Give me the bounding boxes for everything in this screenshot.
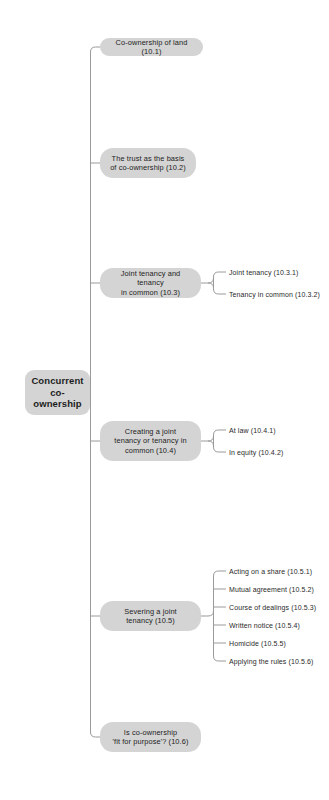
leaf-node-10-5-2[interactable]: Mutual agreement (10.5.2) <box>229 586 314 593</box>
branch-node-10-3[interactable]: Joint tenancy and tenancy in common (10.… <box>100 268 201 298</box>
branch-node-10-2-label: The trust as the basis of co-ownership (… <box>110 154 186 173</box>
branch-connector-10-6 <box>91 727 101 737</box>
leaf-node-10-5-5-label: Homicide (10.5.5) <box>229 640 286 647</box>
leaf-node-10-5-6-label: Applying the rules (10.5.6) <box>229 658 313 665</box>
leaf-bracket-10-3 <box>201 278 214 288</box>
branch-node-10-1-label: Co-ownership of land (10.1) <box>107 38 196 57</box>
leaf-connector-10-3-2 <box>208 283 226 294</box>
leaf-node-10-5-1[interactable]: Acting on a share (10.5.1) <box>229 568 312 575</box>
leaf-node-10-4-1-label: At law (10.4.1) <box>229 427 276 434</box>
leaf-node-10-5-3[interactable]: Course of dealings (10.5.3) <box>229 604 316 611</box>
leaf-node-10-4-2[interactable]: In equity (10.4.2) <box>229 449 283 456</box>
branch-node-10-3-label: Joint tenancy and tenancy in common (10.… <box>107 269 194 297</box>
branch-connector-10-1 <box>91 47 101 55</box>
leaf-node-10-5-2-label: Mutual agreement (10.5.2) <box>229 586 314 593</box>
branch-node-10-4-label: Creating a joint tenancy or tenancy in c… <box>114 427 186 455</box>
leaf-connector-10-5-6 <box>214 656 227 661</box>
leaf-connector-10-5-1 <box>208 571 226 616</box>
root-node-label: Concurrent co-ownership <box>30 375 85 411</box>
leaf-node-10-5-3-label: Course of dealings (10.5.3) <box>229 604 316 611</box>
leaf-node-10-5-4-label: Written notice (10.5.4) <box>229 622 300 629</box>
branch-node-10-5-label: Severing a joint tenancy (10.5) <box>124 607 177 626</box>
mind-map-canvas: Concurrent co-ownership Co-ownership of … <box>0 0 329 800</box>
leaf-node-10-3-2-label: Tenancy in common (10.3.2) <box>229 291 320 298</box>
leaf-node-10-3-1[interactable]: Joint tenancy (10.3.1) <box>229 269 299 276</box>
branch-node-10-5[interactable]: Severing a joint tenancy (10.5) <box>100 601 201 631</box>
leaf-node-10-5-4[interactable]: Written notice (10.5.4) <box>229 622 300 629</box>
leaf-node-10-3-2[interactable]: Tenancy in common (10.3.2) <box>229 291 320 298</box>
leaf-connector-10-3-1 <box>208 272 226 283</box>
leaf-node-10-4-1[interactable]: At law (10.4.1) <box>229 427 276 434</box>
branch-node-10-4[interactable]: Creating a joint tenancy or tenancy in c… <box>100 421 201 461</box>
branch-node-10-1[interactable]: Co-ownership of land (10.1) <box>100 38 203 56</box>
root-node[interactable]: Concurrent co-ownership <box>25 370 90 415</box>
leaf-connector-10-4-1 <box>208 430 226 441</box>
leaf-connector-10-4-2 <box>208 441 226 452</box>
leaf-node-10-5-1-label: Acting on a share (10.5.1) <box>229 568 312 575</box>
branch-node-10-6-label: Is co-ownership 'fit for purpose'? (10.6… <box>113 728 189 747</box>
leaf-node-10-4-2-label: In equity (10.4.2) <box>229 449 283 456</box>
leaf-node-10-5-6[interactable]: Applying the rules (10.5.6) <box>229 658 313 665</box>
leaf-bracket-10-4 <box>201 436 214 446</box>
leaf-node-10-3-1-label: Joint tenancy (10.3.1) <box>229 269 299 276</box>
branch-node-10-2[interactable]: The trust as the basis of co-ownership (… <box>100 148 196 178</box>
branch-node-10-6[interactable]: Is co-ownership 'fit for purpose'? (10.6… <box>100 722 201 752</box>
leaf-node-10-5-5[interactable]: Homicide (10.5.5) <box>229 640 286 647</box>
